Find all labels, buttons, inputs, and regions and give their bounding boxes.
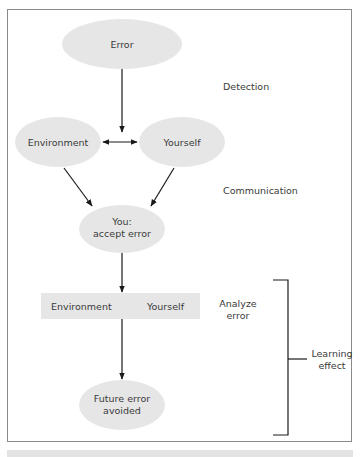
node-future-error-avoided: Future error avoided — [79, 380, 165, 430]
node-analyze-box: Environment Yourself — [41, 293, 200, 319]
stage-analyze-error: error — [227, 310, 250, 321]
node-avoided-label: avoided — [103, 405, 141, 416]
arrow-yourself-to-you — [151, 168, 174, 206]
stage-analyze: Analyze — [219, 298, 257, 309]
node-environment: Environment — [15, 117, 101, 167]
node-error: Error — [62, 19, 182, 69]
footer-band — [7, 450, 353, 457]
node-yourself: Yourself — [139, 117, 225, 167]
node-yourself-label: Yourself — [162, 137, 201, 148]
node-environment-label: Environment — [28, 137, 89, 148]
arrow-environment-to-you — [64, 168, 92, 206]
node-future-error-label: Future error — [94, 393, 150, 404]
stage-learning-effect: effect — [318, 360, 345, 371]
node-error-label: Error — [110, 39, 133, 50]
analyze-box-environment-label: Environment — [51, 301, 112, 312]
stage-communication: Communication — [223, 185, 298, 196]
node-accept-error-label: accept error — [93, 228, 151, 239]
learning-bracket — [273, 280, 307, 435]
stage-learning: Learning — [311, 348, 352, 359]
stage-detection: Detection — [223, 81, 269, 92]
node-you-accept-error: You: accept error — [79, 205, 165, 253]
error-learning-diagram: Error Environment Yourself You: accept e… — [0, 0, 360, 457]
node-you-label: You: — [111, 216, 132, 227]
analyze-box-yourself-label: Yourself — [146, 301, 185, 312]
